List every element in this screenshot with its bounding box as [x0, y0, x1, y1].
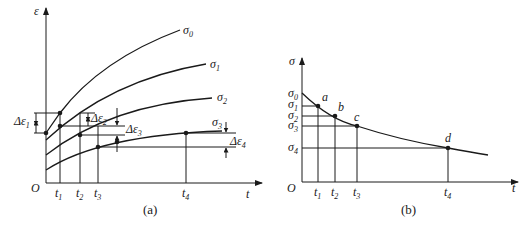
- data-point: [58, 111, 63, 116]
- point-b: [333, 114, 338, 119]
- label-delta-eps4: Δε4: [229, 134, 246, 150]
- label-delta-eps1: Δε1: [13, 114, 30, 130]
- label-sigma2: σ2: [217, 90, 227, 106]
- point-d: [446, 146, 451, 151]
- data-point: [44, 131, 49, 136]
- figure: ε t O σ0 σ1 σ2 σ3 Δε1: [0, 0, 530, 225]
- origin-label: O: [287, 181, 296, 195]
- label-delta-eps2: Δε2: [90, 111, 107, 127]
- tick-t1: t1: [314, 185, 321, 201]
- tick-t3: t3: [353, 185, 360, 201]
- data-point: [78, 133, 83, 138]
- label-c: c: [354, 110, 360, 124]
- label-d: d: [445, 131, 452, 145]
- tick-t4: t4: [182, 186, 189, 202]
- label-sigma3: σ3: [212, 115, 222, 131]
- label-a: a: [322, 90, 328, 104]
- panel-a: ε t O σ0 σ1 σ2 σ3 Δε1: [13, 4, 262, 217]
- tick-t4: t4: [444, 185, 451, 201]
- tick-t2: t2: [76, 186, 83, 202]
- x-axis-label: t: [246, 187, 250, 201]
- caption-b: (b): [401, 202, 416, 217]
- panel-b: σ t O a b c d σ0 σ1 σ2 σ3 σ4 t1 t2 t3: [287, 54, 518, 217]
- data-point: [96, 145, 101, 150]
- point-c: [355, 124, 360, 129]
- y-axis-label: ε: [34, 4, 39, 18]
- label-b: b: [338, 100, 344, 114]
- data-point: [115, 140, 120, 145]
- label-sigma1: σ1: [210, 57, 220, 73]
- ytick-sigma4: σ4: [288, 140, 298, 156]
- tick-t1: t1: [55, 186, 62, 202]
- stress-relaxation-curve: [302, 93, 488, 155]
- tick-t3: t3: [94, 186, 101, 202]
- data-point: [184, 131, 189, 136]
- label-sigma0: σ0: [183, 23, 193, 39]
- label-delta-eps3: Δε3: [125, 122, 142, 138]
- x-axis-label: t: [512, 181, 516, 195]
- origin-label: O: [31, 181, 40, 195]
- data-point: [58, 124, 63, 129]
- caption-a: (a): [143, 202, 157, 217]
- tick-t2: t2: [331, 185, 338, 201]
- y-axis-label: σ: [289, 54, 296, 68]
- point-a: [316, 104, 321, 109]
